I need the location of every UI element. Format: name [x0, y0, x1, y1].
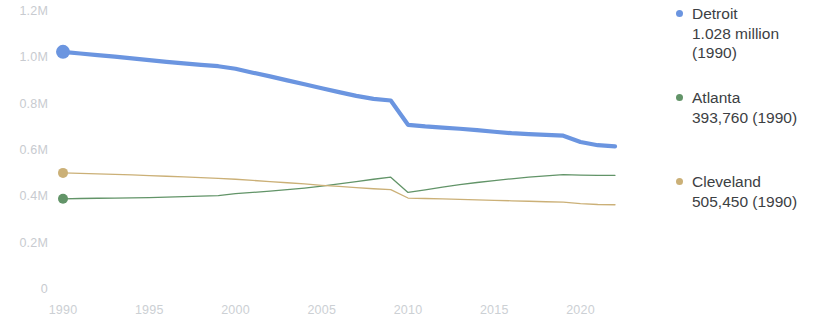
legend-series-value: 505,450 (1990): [692, 192, 797, 212]
legend-text: Cleveland505,450 (1990): [692, 172, 797, 211]
series-start-marker-cleveland: [58, 168, 68, 178]
chart-legend: Detroit1.028 million (1990)Atlanta393,76…: [676, 0, 833, 325]
legend-color-dot-icon: [676, 178, 683, 185]
legend-series-name: Cleveland: [692, 172, 797, 192]
legend-item-cleveland[interactable]: Cleveland505,450 (1990): [676, 172, 833, 211]
chart-canvas: [0, 0, 670, 325]
legend-text: Detroit1.028 million (1990): [692, 4, 779, 63]
series-line-detroit: [63, 52, 615, 147]
plot-area: [0, 0, 670, 325]
legend-item-detroit[interactable]: Detroit1.028 million (1990): [676, 4, 833, 63]
legend-item-atlanta[interactable]: Atlanta393,760 (1990): [676, 88, 833, 127]
series-start-marker-detroit: [56, 45, 70, 59]
legend-series-value: 393,760 (1990): [692, 108, 797, 128]
legend-series-name: Detroit: [692, 4, 779, 24]
series-line-cleveland: [63, 173, 615, 205]
legend-series-name: Atlanta: [692, 88, 797, 108]
series-start-marker-atlanta: [58, 194, 68, 204]
legend-text: Atlanta393,760 (1990): [692, 88, 797, 127]
legend-color-dot-icon: [676, 10, 683, 17]
legend-series-value: 1.028 million (1990): [692, 24, 779, 63]
population-line-chart: 1.2M1.0M0.8M0.6M0.4M0.2M0 19901995200020…: [0, 0, 833, 325]
legend-color-dot-icon: [676, 94, 683, 101]
